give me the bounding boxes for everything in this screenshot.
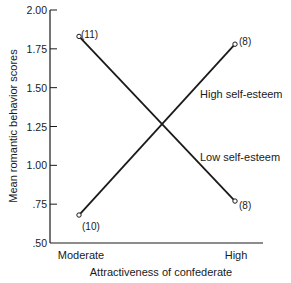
x-axis-title: Attractiveness of confederate [90, 266, 232, 278]
series-label-high-self-esteem: High self-esteem [200, 88, 283, 100]
y-tick-label: .50 [32, 237, 47, 249]
y-axis-title: Mean romantic behavior scores [7, 49, 19, 203]
data-point-marker [233, 42, 237, 46]
series-layer [77, 34, 237, 217]
n-label-low-moderate: (11) [81, 29, 98, 40]
x-category-high: High [225, 249, 248, 261]
n-label-high-moderate: (10) [82, 221, 100, 232]
y-tick-label: 1.25 [27, 121, 48, 133]
y-tick-label: 2.00 [27, 4, 48, 16]
n-label-high-high: (8) [239, 36, 251, 47]
data-point-marker [77, 213, 81, 217]
y-tick-label: 1.50 [27, 82, 48, 94]
n-label-low-high: (8) [239, 200, 251, 211]
y-tick-label: 1.75 [27, 43, 48, 55]
series-line-high-self-esteem [79, 44, 235, 215]
x-category-moderate: Moderate [58, 249, 104, 261]
data-point-marker [233, 199, 237, 203]
series-label-low-self-esteem: Low self-esteem [200, 151, 280, 163]
y-tick-label: .75 [32, 198, 47, 210]
y-tick-label: 1.00 [27, 159, 48, 171]
y-axis-ticks: .50.751.001.251.501.752.00 [27, 4, 57, 249]
series-line-low-self-esteem [79, 36, 235, 201]
interaction-line-chart: .50.751.001.251.501.752.00 Mean romantic… [0, 0, 291, 283]
